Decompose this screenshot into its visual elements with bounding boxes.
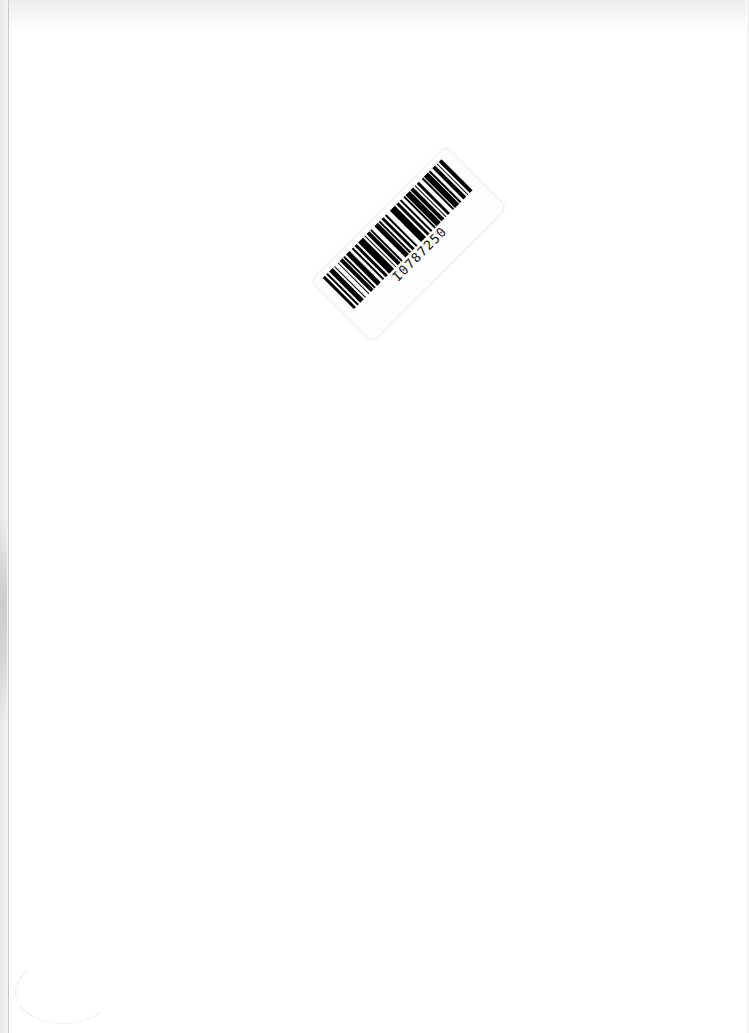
top-edge-shadow: [0, 0, 749, 30]
barcode-icon: [323, 158, 474, 309]
left-edge-shadow: [0, 520, 7, 720]
faint-stamp-outline: [15, 960, 112, 1024]
barcode-sticker: I0787250: [310, 145, 508, 343]
left-binding-edge: [0, 0, 8, 1033]
scanned-page: I0787250: [0, 0, 749, 1033]
left-edge-line: [8, 0, 9, 1033]
